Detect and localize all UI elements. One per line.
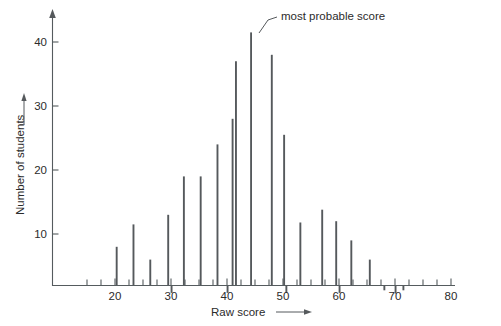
y-axis-title-group: Number of students xyxy=(14,93,27,215)
annotation-leader-line xyxy=(259,17,277,33)
annotation-label: most probable score xyxy=(281,10,385,22)
x-tick-label: 60 xyxy=(333,290,346,302)
y-axis-arrowhead xyxy=(49,9,56,18)
y-tick-label: 30 xyxy=(34,100,47,112)
y-axis-ticks xyxy=(53,42,59,234)
y-tick-label: 20 xyxy=(34,164,47,176)
y-tick-label: 10 xyxy=(34,228,47,240)
y-axis-title: Number of students xyxy=(14,114,26,215)
x-axis-title-arrowhead xyxy=(304,309,312,314)
y-axis-title-arrowhead xyxy=(21,93,26,101)
x-tick-label: 20 xyxy=(109,290,122,302)
x-tick-label: 30 xyxy=(165,290,178,302)
x-tick-label: 50 xyxy=(277,290,290,302)
x-axis-tick-labels: 20304050607080 xyxy=(109,290,458,302)
chart-svg: 10203040 20304050607080 Number of studen… xyxy=(0,0,501,326)
y-tick-label: 40 xyxy=(34,36,47,48)
x-axis-title: Raw score xyxy=(211,306,265,318)
x-tick-label: 80 xyxy=(445,290,458,302)
annotation-group: most probable score xyxy=(259,10,385,33)
bar-series xyxy=(117,32,404,293)
y-axis-tick-labels: 10203040 xyxy=(34,36,47,240)
x-tick-label: 40 xyxy=(221,290,234,302)
x-tick-label: 70 xyxy=(389,290,402,302)
x-axis-title-group: Raw score xyxy=(211,306,312,318)
histogram-figure: 10203040 20304050607080 Number of studen… xyxy=(0,0,501,326)
x-axis-ticks xyxy=(87,279,451,286)
